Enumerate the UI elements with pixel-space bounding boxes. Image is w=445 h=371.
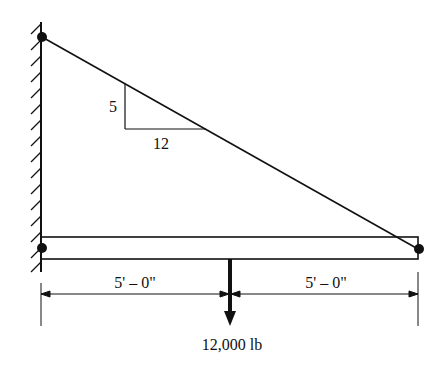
beam-end-pin <box>414 244 424 254</box>
beam <box>41 237 418 259</box>
beam-wall-pin <box>37 243 47 253</box>
wall-support <box>31 22 41 272</box>
top-wall-pin <box>37 32 47 42</box>
tie-rod <box>42 37 418 249</box>
dimension-left-label: 5' – 0" <box>114 274 155 291</box>
slope-rise-label: 5 <box>109 98 117 115</box>
dimension-right-label: 5' – 0" <box>305 274 346 291</box>
beam-diagram: 5 12 5' – 0" 5' – 0" 12,000 lb <box>0 0 445 371</box>
slope-run-label: 12 <box>153 135 169 152</box>
load-label: 12,000 lb <box>202 336 262 353</box>
